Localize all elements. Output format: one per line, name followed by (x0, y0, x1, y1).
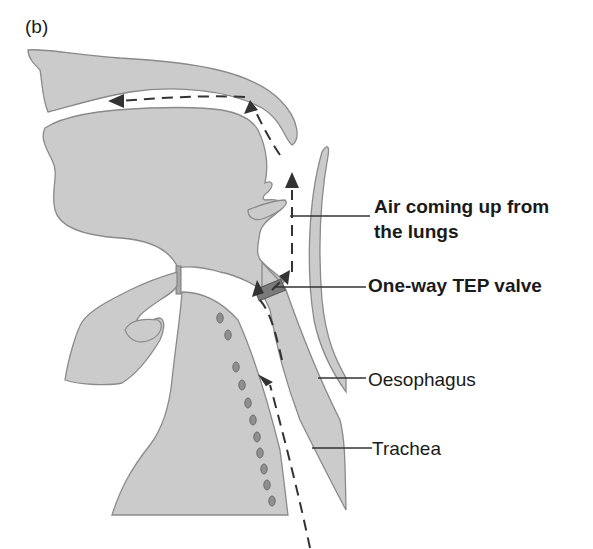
label-trachea: Trachea (372, 438, 441, 460)
label-air-line1: Air coming up from (374, 196, 549, 218)
head-tongue-shape (43, 107, 284, 296)
label-oesophagus: Oesophagus (368, 369, 476, 391)
label-air-line2: the lungs (374, 221, 458, 243)
panel-label: (b) (25, 16, 48, 38)
oesophagus-shape (309, 147, 346, 392)
label-valve: One-way TEP valve (368, 275, 542, 297)
